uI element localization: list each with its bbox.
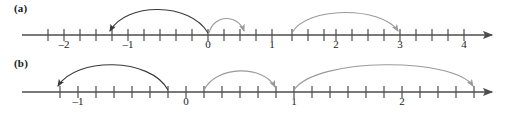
tick-label: –1: [123, 38, 134, 50]
arc-b-1: [58, 65, 168, 90]
tick-label: –1: [73, 95, 84, 107]
panel-a: (a): [0, 0, 506, 58]
tick-label: 0: [205, 38, 211, 50]
tick-label: 1: [291, 95, 297, 107]
tick-label: 4: [461, 38, 467, 50]
tick-label: 2: [333, 38, 339, 50]
tick-label: 1: [269, 38, 275, 50]
arc-a-2: [209, 18, 244, 33]
tick-label: –2: [59, 38, 70, 50]
tick-label: 2: [399, 95, 405, 107]
number-line-figure: (a): [0, 0, 506, 115]
panel-b: (b): [0, 55, 506, 113]
tick-label: 3: [397, 38, 403, 50]
panel-a-graphic: [0, 0, 506, 58]
arc-a-1: [110, 9, 208, 33]
tick-label: 0: [183, 95, 189, 107]
